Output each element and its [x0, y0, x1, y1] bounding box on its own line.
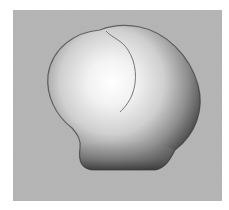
blob-base-shadow: [80, 142, 175, 171]
render-panel: [13, 10, 222, 201]
blob-render: [13, 10, 222, 201]
